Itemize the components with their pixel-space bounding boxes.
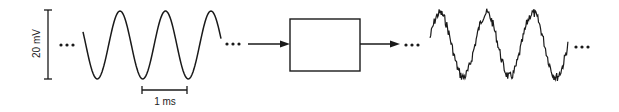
ellipsis-middle-right: [404, 43, 419, 46]
output-noisy-sine-wave: [430, 9, 568, 81]
time-scale-bar: [142, 86, 187, 94]
time-scale-label: 1 ms: [150, 96, 180, 107]
input-sine-wave: [83, 11, 221, 79]
input-arrow: [248, 41, 290, 48]
voltage-scale-bar: [44, 10, 52, 79]
process-block: [290, 19, 360, 71]
output-arrow: [360, 41, 400, 48]
voltage-scale-label: 20 mV: [31, 28, 42, 60]
ellipsis-left: [59, 43, 74, 46]
signal-diagram: [0, 0, 619, 112]
ellipsis-middle-left: [225, 42, 240, 45]
ellipsis-right: [574, 45, 589, 48]
